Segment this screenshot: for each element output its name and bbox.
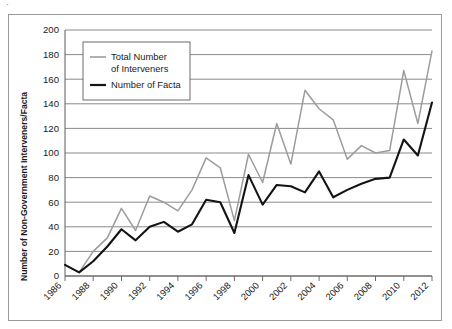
legend-label-facta-line1: Number of Facta (111, 79, 182, 90)
x-tick-label-2010: 2010 (380, 280, 403, 303)
x-axis-tick-labels: 1986 1988 1990 1992 1994 1996 1998 2000 … (41, 280, 431, 303)
chart-svg: Number of Non-Government Interveners/Fac… (0, 0, 452, 329)
y-tick-label-40: 40 (48, 221, 59, 232)
x-tick-label-2012: 2012 (408, 280, 431, 303)
x-tick-label-2008: 2008 (351, 280, 374, 303)
y-tick-label-200: 200 (43, 24, 59, 35)
chart-legend: Total Number of Interveners Number of Fa… (83, 42, 190, 100)
x-tick-label-2006: 2006 (323, 280, 346, 303)
x-tick-label-1988: 1988 (69, 280, 92, 303)
x-tick-label-2002: 2002 (267, 280, 290, 303)
y-tick-label-60: 60 (48, 197, 59, 208)
y-axis-title-text: Number of Non-Government Interveners/Fac… (19, 92, 29, 281)
y-tick-label-20: 20 (48, 246, 59, 257)
y-axis-tick-labels: 0 20 40 60 80 100 120 140 160 180 200 (43, 24, 59, 281)
x-tick-label-1996: 1996 (182, 280, 205, 303)
y-tick-label-80: 80 (48, 172, 59, 183)
legend-label-total-line2: of Interveners (111, 63, 169, 74)
legend-label-total-line1: Total Number (111, 51, 167, 62)
x-tick-label-2004: 2004 (295, 280, 318, 303)
y-tick-label-140: 140 (43, 98, 59, 109)
y-axis-title: Number of Non-Government Interveners/Fac… (19, 92, 29, 281)
page-root: · Number of Non-Government Interveners/F… (0, 0, 452, 329)
y-tick-label-160: 160 (43, 74, 59, 85)
y-tick-label-100: 100 (43, 147, 59, 158)
x-tick-label-1986: 1986 (41, 280, 64, 303)
x-tick-label-2000: 2000 (238, 280, 261, 303)
y-tick-label-120: 120 (43, 123, 59, 134)
x-tick-label-1992: 1992 (126, 280, 149, 303)
line-chart: Number of Non-Government Interveners/Fac… (0, 0, 452, 329)
y-tick-label-180: 180 (43, 49, 59, 60)
x-tick-label-1990: 1990 (97, 280, 120, 303)
x-axis-ticks (65, 276, 432, 281)
x-tick-label-1994: 1994 (154, 280, 177, 303)
x-tick-label-1998: 1998 (210, 280, 233, 303)
